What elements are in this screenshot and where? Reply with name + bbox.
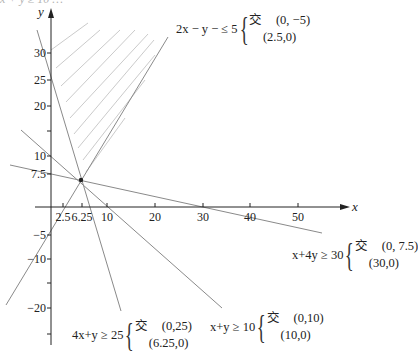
intercept-label: 交 xyxy=(135,319,148,333)
y-tick-label: 30 xyxy=(34,46,46,60)
inequality-text: x+4y ≥ 30 xyxy=(292,248,343,263)
annotation-x-plus-y: x+y ≥ 10 { 交(0,10) (10,0) xyxy=(210,310,324,344)
constraint-lines xyxy=(6,30,322,311)
intercept-point: (0, −5) xyxy=(262,13,310,27)
intercept-point: (2.5,0) xyxy=(249,29,310,46)
x-axis-arrow-icon xyxy=(340,204,350,210)
intercept-point: (0, 7.5) xyxy=(368,239,418,253)
x-tick-label: 10 xyxy=(101,210,113,224)
cropped-header-text: x + y ≥ 10 … xyxy=(0,0,63,7)
intercept-label: 交 xyxy=(267,311,280,325)
brace-icon: { xyxy=(257,312,266,342)
annotation-4x-plus-y: 4x+y ≥ 25 { 交(0,25) (6.25,0) xyxy=(72,318,192,352)
y-tick-label: 25 xyxy=(34,73,46,87)
annotation-2x-minus-y: 2x − y − ≤ 5 { 交(0, −5) (2.5,0) xyxy=(176,12,310,46)
intercept-point: (0,10) xyxy=(280,311,324,325)
inequality-text: 4x+y ≥ 25 xyxy=(72,328,123,343)
y-ticks: 302520107.5−5−10−20 xyxy=(27,46,51,334)
annotation-x-plus-4y: x+4y ≥ 30 { 交(0, 7.5) (30,0) xyxy=(292,238,418,272)
inequality-text: 2x − y − ≤ 5 xyxy=(176,22,238,37)
line-4x-plus-y-25 xyxy=(37,30,121,311)
inequality-text: x+y ≥ 10 xyxy=(210,320,255,335)
x-tick-label: 40 xyxy=(244,210,256,224)
intercept-point: (30,0) xyxy=(355,255,418,272)
y-tick-label: −10 xyxy=(27,252,46,266)
x-tick-label: 6.25 xyxy=(72,210,93,224)
intercept-point: (6.25,0) xyxy=(135,335,192,352)
x-tick-label: 30 xyxy=(197,210,209,224)
intercept-point: (10,0) xyxy=(267,327,324,344)
x-tick-label: 50 xyxy=(292,210,304,224)
intercept-point: (0,25) xyxy=(148,319,192,333)
y-axis-arrow-icon xyxy=(48,8,54,18)
brace-icon: { xyxy=(125,320,134,350)
intercept-label: 交 xyxy=(249,13,262,27)
feasible-region-hatching xyxy=(51,23,155,172)
x-tick-label: 20 xyxy=(149,210,161,224)
brace-icon: { xyxy=(239,14,248,44)
y-tick-label: −5 xyxy=(33,228,46,242)
x-axis-label: x xyxy=(351,199,358,214)
y-tick-label: −20 xyxy=(27,301,46,315)
vertex-marker xyxy=(79,178,83,182)
y-tick-label: 7.5 xyxy=(31,167,46,181)
y-tick-label: 10 xyxy=(34,149,46,163)
x-tick-label: 2.5 xyxy=(56,210,71,224)
intercept-label: 交 xyxy=(355,239,368,253)
y-tick-label: 20 xyxy=(34,99,46,113)
axes xyxy=(35,8,350,345)
brace-icon: { xyxy=(345,240,354,270)
